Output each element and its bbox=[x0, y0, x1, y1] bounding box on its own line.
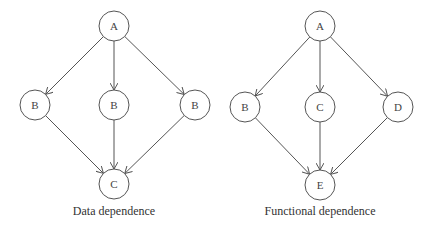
caption-functional-dependence: Functional dependence bbox=[220, 204, 420, 219]
svg-text:C: C bbox=[110, 178, 117, 190]
node-b: B bbox=[180, 90, 210, 120]
edge-arrow bbox=[255, 37, 310, 96]
node-d: D bbox=[383, 92, 413, 122]
dependence-diagrams: ABBBCABCDE bbox=[0, 0, 432, 228]
edges bbox=[46, 36, 388, 174]
edge-arrow bbox=[330, 37, 387, 96]
nodes: ABBBCABCDE bbox=[20, 11, 413, 200]
svg-text:B: B bbox=[191, 99, 198, 111]
caption-data-dependence: Data dependence bbox=[14, 204, 214, 219]
node-c: C bbox=[305, 92, 335, 122]
edge-arrow bbox=[46, 37, 104, 95]
node-e: E bbox=[305, 170, 335, 200]
svg-text:E: E bbox=[317, 179, 324, 191]
edge-arrow bbox=[255, 118, 309, 174]
edge-arrow bbox=[125, 36, 185, 94]
node-a: A bbox=[99, 11, 129, 41]
svg-text:B: B bbox=[31, 99, 38, 111]
svg-text:D: D bbox=[394, 101, 402, 113]
svg-text:B: B bbox=[110, 99, 117, 111]
node-b: B bbox=[20, 90, 50, 120]
edge-arrow bbox=[46, 116, 104, 174]
svg-text:A: A bbox=[316, 20, 324, 32]
edge-arrow bbox=[125, 115, 185, 173]
node-a: A bbox=[305, 11, 335, 41]
svg-text:B: B bbox=[241, 101, 248, 113]
svg-text:C: C bbox=[316, 101, 323, 113]
node-c: C bbox=[99, 169, 129, 199]
node-b: B bbox=[99, 90, 129, 120]
node-b: B bbox=[230, 92, 260, 122]
edge-arrow bbox=[331, 118, 388, 175]
svg-text:A: A bbox=[110, 20, 118, 32]
